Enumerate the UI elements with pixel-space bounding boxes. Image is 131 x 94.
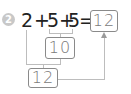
final-sum-box[interactable]: 12 xyxy=(28,68,58,88)
final-to-answer-vertical xyxy=(104,37,105,80)
answer-box[interactable]: 12 xyxy=(90,10,118,32)
problem-number-badge: 2 xyxy=(2,13,15,26)
term-2: 2 xyxy=(21,7,33,33)
intermediate-sum-box[interactable]: 10 xyxy=(45,37,75,59)
final-to-answer-horizontal xyxy=(58,79,105,80)
bracket-bar xyxy=(49,33,73,34)
arrow-up-icon xyxy=(101,32,107,38)
box-down-connector xyxy=(60,59,61,65)
left-connector-vertical xyxy=(26,30,27,65)
